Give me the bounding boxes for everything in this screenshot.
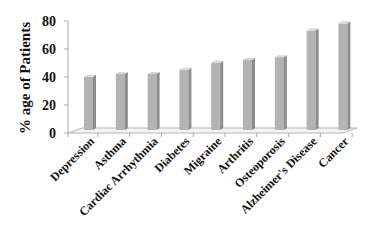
bar bbox=[116, 72, 128, 130]
y-tick-label: 0 bbox=[49, 126, 56, 141]
x-tick-label: Cancer bbox=[315, 134, 352, 171]
bar bbox=[84, 75, 96, 130]
y-tick-label: 40 bbox=[42, 70, 56, 85]
x-axis-labels: DepressionAsthmaCardiac ArrhythmiaDiabet… bbox=[47, 133, 352, 219]
bar-chart: % age of Patients 020406080 DepressionAs… bbox=[0, 0, 367, 249]
y-axis: 020406080 bbox=[42, 14, 68, 141]
bar bbox=[275, 55, 287, 130]
y-tick-label: 60 bbox=[42, 42, 56, 57]
bar bbox=[307, 29, 319, 130]
bar bbox=[243, 58, 255, 130]
bar bbox=[338, 22, 350, 130]
y-tick-label: 80 bbox=[42, 14, 56, 29]
bars bbox=[84, 22, 350, 130]
bar bbox=[148, 72, 160, 130]
y-tick-label: 20 bbox=[42, 98, 56, 113]
y-axis-label: % age of Patients bbox=[17, 22, 33, 134]
x-tick-label: Depression bbox=[47, 134, 97, 184]
bar bbox=[211, 61, 223, 130]
bar bbox=[179, 68, 191, 130]
